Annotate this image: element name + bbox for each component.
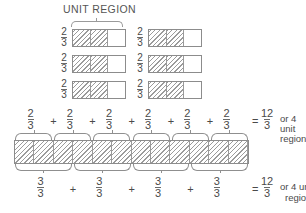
- shaded-cell: [73, 82, 91, 98]
- shaded-cell: [93, 141, 112, 163]
- fraction-rectangle: [72, 29, 126, 47]
- fraction-rectangle: [148, 29, 202, 47]
- shaded-cell: [73, 56, 91, 72]
- shaded-cell: [151, 141, 170, 163]
- cell-fraction-denominator: 3: [61, 89, 67, 100]
- fraction-rectangle: [148, 55, 202, 73]
- cell-fraction-numerator: 2: [137, 53, 143, 63]
- shaded-cell: [209, 141, 228, 163]
- shaded-cell: [54, 141, 73, 163]
- two-thirds-term: 23: [67, 108, 73, 131]
- fraction-rectangle: [148, 81, 202, 99]
- term-numerator: 2: [67, 108, 73, 119]
- shaded-cell: [91, 30, 109, 46]
- cell-fraction-numerator: 2: [137, 79, 143, 89]
- term-denominator: 3: [96, 187, 102, 199]
- plus-sign: +: [207, 116, 213, 127]
- three-thirds-term-row: 33+33+33+33=123or 4 unitregions: [14, 173, 306, 203]
- diagram-canvas: UNIT REGION 232323232323 23+23+23+23+23+…: [0, 0, 306, 213]
- cell-fraction-numerator: 2: [61, 53, 67, 63]
- upper-brace-group: [14, 132, 254, 140]
- two-thirds-term: 23: [223, 108, 229, 131]
- term-denominator: 3: [155, 187, 161, 199]
- fraction-rectangle: [72, 81, 126, 99]
- upper-brace-tick: [34, 130, 35, 133]
- three-thirds-term: 33: [214, 176, 220, 199]
- shaded-cell: [15, 141, 34, 163]
- two-thirds-term: 23: [106, 108, 112, 131]
- cell-fraction-denominator: 3: [61, 37, 67, 48]
- unit-region-row: 2323: [58, 79, 202, 100]
- shaded-cell: [170, 141, 189, 163]
- empty-cell: [108, 56, 125, 72]
- cell-fraction-denominator: 3: [137, 63, 143, 74]
- regions-text: regions: [285, 192, 306, 203]
- term-denominator: 3: [37, 187, 43, 199]
- term-numerator: 3: [96, 176, 102, 187]
- plus-sign: +: [70, 184, 76, 195]
- upper-brace: [15, 133, 52, 140]
- two-thirds-term: 23: [184, 108, 190, 131]
- cell-fraction-numerator: 2: [61, 79, 67, 89]
- result-numerator: 12: [261, 176, 273, 187]
- shaded-cell: [132, 141, 151, 163]
- term-numerator: 2: [184, 108, 190, 119]
- regions-text: regions: [280, 133, 306, 144]
- term-numerator: 3: [37, 176, 43, 187]
- three-thirds-term: 33: [37, 176, 43, 199]
- upper-brace-tick: [112, 130, 113, 133]
- shaded-cell: [167, 56, 185, 72]
- fraction-rectangle: [72, 55, 126, 73]
- two-thirds-term: 23: [28, 108, 34, 131]
- upper-brace: [133, 133, 170, 140]
- shaded-cell: [73, 30, 91, 46]
- unit-region-row: 2323: [58, 27, 202, 48]
- cell-fraction-numerator: 2: [137, 27, 143, 37]
- plus-sign: +: [50, 116, 56, 127]
- term-denominator: 3: [214, 187, 220, 199]
- upper-brace-tick: [73, 130, 74, 133]
- shaded-cell: [229, 141, 248, 163]
- term-numerator: 2: [106, 108, 112, 119]
- shaded-cell: [91, 56, 109, 72]
- cell-fraction-denominator: 3: [137, 37, 143, 48]
- plus-sign: +: [187, 184, 193, 195]
- lower-brace-group: [14, 164, 254, 172]
- empty-cell: [184, 82, 201, 98]
- three-thirds-term: 33: [96, 176, 102, 199]
- cell-fraction-denominator: 3: [61, 63, 67, 74]
- cell-fraction-label: 23: [58, 79, 70, 100]
- term-numerator: 2: [28, 108, 34, 119]
- upper-brace: [93, 133, 130, 140]
- shaded-cell: [167, 82, 185, 98]
- shaded-cell: [112, 141, 131, 163]
- result-fraction: 123: [261, 108, 273, 131]
- term-numerator: 3: [155, 176, 161, 187]
- shaded-cell: [149, 56, 167, 72]
- result-denominator: 3: [264, 119, 270, 131]
- plus-sign: +: [168, 116, 174, 127]
- or-four-unit-text: or 4 unit: [280, 181, 306, 192]
- term-numerator: 2: [223, 108, 229, 119]
- empty-cell: [108, 30, 125, 46]
- result-denominator: 3: [264, 187, 270, 199]
- two-thirds-term-row: 23+23+23+23+23+23=123or 4unitregions: [14, 108, 306, 132]
- empty-cell: [108, 82, 125, 98]
- cell-fraction-label: 23: [134, 53, 146, 74]
- term-numerator: 3: [214, 176, 220, 187]
- equals-sign: =: [252, 184, 258, 195]
- upper-brace: [211, 133, 248, 140]
- upper-brace: [54, 133, 91, 140]
- cell-fraction-numerator: 2: [61, 27, 67, 37]
- shaded-cell: [34, 141, 53, 163]
- cell-fraction-denominator: 3: [137, 89, 143, 100]
- upper-brace-tick: [151, 130, 152, 133]
- empty-cell: [184, 56, 201, 72]
- two-thirds-term: 23: [145, 108, 151, 131]
- cell-fraction-label: 23: [134, 79, 146, 100]
- shaded-cell: [190, 141, 209, 163]
- upper-brace-tick: [190, 130, 191, 133]
- three-thirds-term: 33: [155, 176, 161, 199]
- cell-fraction-label: 23: [58, 27, 70, 48]
- upper-brace-tick: [229, 130, 230, 133]
